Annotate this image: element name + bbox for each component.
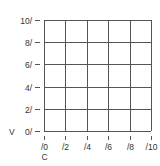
y-axis-label: V (9, 127, 15, 137)
y-tick-label: 4/ (25, 83, 33, 93)
y-axis: 0/2/4/6/8/10/ (20, 16, 40, 137)
x-tick-label: /10 (146, 142, 158, 152)
y-tick-label: 6/ (25, 60, 33, 70)
x-tick-label: /6 (105, 142, 112, 152)
x-axis: /0/2/4/6/8/10 (41, 136, 158, 152)
x-tick-label: /4 (84, 142, 91, 152)
x-tick-label: /0 (41, 142, 48, 152)
plot-grid (44, 20, 152, 132)
y-tick-label: 10/ (20, 16, 32, 26)
x-tick-label: /8 (127, 142, 134, 152)
y-tick-label: 8/ (25, 38, 33, 48)
chart: 0/2/4/6/8/10/ /0/2/4/6/8/10 V C (0, 0, 160, 166)
y-tick-label: 2/ (25, 105, 33, 115)
x-axis-label: C (41, 152, 47, 162)
x-tick-label: /2 (62, 142, 69, 152)
y-tick-label: 0/ (25, 127, 33, 137)
